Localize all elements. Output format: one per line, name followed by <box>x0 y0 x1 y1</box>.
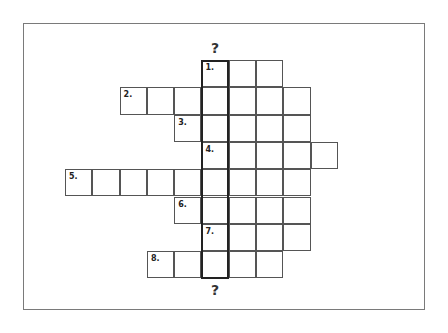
crossword-cell[interactable] <box>256 60 283 87</box>
crossword-cell[interactable] <box>283 115 310 142</box>
crossword-cell[interactable] <box>202 169 229 196</box>
crossword-cell[interactable] <box>256 115 283 142</box>
crossword-cell[interactable] <box>120 169 147 196</box>
clue-number: 5. <box>69 172 78 181</box>
clue-number: 3. <box>178 118 187 127</box>
crossword-cell[interactable] <box>283 224 310 251</box>
crossword-cell[interactable] <box>92 169 119 196</box>
key-column-question-top: ? <box>205 40 225 56</box>
crossword-cell[interactable] <box>174 169 201 196</box>
crossword-cell[interactable] <box>311 142 338 169</box>
crossword-cell[interactable] <box>147 169 174 196</box>
crossword-cell[interactable] <box>229 115 256 142</box>
crossword-cell[interactable] <box>229 251 256 278</box>
crossword-cell[interactable] <box>229 224 256 251</box>
crossword-cell[interactable] <box>256 197 283 224</box>
crossword-cell[interactable]: 8. <box>147 251 174 278</box>
crossword-cell[interactable] <box>283 87 310 114</box>
crossword-cell[interactable] <box>256 169 283 196</box>
crossword-cell[interactable]: 4. <box>202 142 229 169</box>
crossword-cell[interactable] <box>229 142 256 169</box>
crossword-cell[interactable]: 2. <box>120 87 147 114</box>
crossword-cell[interactable] <box>256 251 283 278</box>
crossword-cell[interactable]: 1. <box>202 60 229 87</box>
crossword-cell[interactable] <box>283 169 310 196</box>
crossword-cell[interactable] <box>229 60 256 87</box>
crossword-cell[interactable]: 5. <box>65 169 92 196</box>
crossword-cell[interactable] <box>283 197 310 224</box>
clue-number: 8. <box>151 254 160 263</box>
crossword-cell[interactable] <box>229 169 256 196</box>
crossword-cell[interactable] <box>256 142 283 169</box>
crossword-cell[interactable] <box>256 224 283 251</box>
key-column-question-bottom: ? <box>205 282 225 298</box>
crossword-cell[interactable]: 3. <box>174 115 201 142</box>
crossword-cell[interactable] <box>174 87 201 114</box>
crossword-cell[interactable] <box>202 251 229 278</box>
crossword-cell[interactable]: 6. <box>174 197 201 224</box>
crossword-cell[interactable] <box>202 115 229 142</box>
crossword-cell[interactable] <box>147 87 174 114</box>
clue-number: 7. <box>206 227 215 236</box>
crossword-cell[interactable] <box>202 197 229 224</box>
clue-number: 1. <box>206 63 215 72</box>
crossword-cell[interactable]: 7. <box>202 224 229 251</box>
crossword-cell[interactable] <box>202 87 229 114</box>
clue-number: 6. <box>178 200 187 209</box>
clue-number: 4. <box>206 145 215 154</box>
crossword-cell[interactable] <box>283 142 310 169</box>
clue-number: 2. <box>124 90 133 99</box>
crossword-cell[interactable] <box>174 251 201 278</box>
crossword-cell[interactable] <box>229 87 256 114</box>
crossword-cell[interactable] <box>256 87 283 114</box>
crossword-cell[interactable] <box>229 197 256 224</box>
